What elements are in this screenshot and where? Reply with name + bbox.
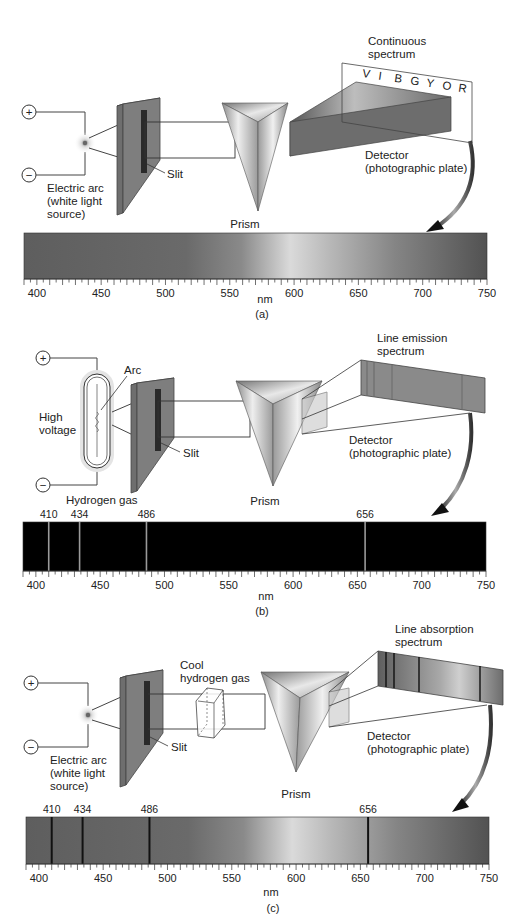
- detector-plate-emission: [361, 360, 485, 413]
- tick-label: 550: [223, 872, 241, 884]
- spectrum-title: Line absorption: [395, 623, 474, 635]
- prism-label: Prism: [230, 218, 259, 230]
- prism-label: Prism: [281, 788, 310, 800]
- spectrum-bar-continuous: 400450500550600650700750: [24, 233, 496, 299]
- spectrum-title-line2: spectrum: [377, 345, 424, 357]
- spectrum-bar-absorption: 410434486656400450500550600650700750: [26, 803, 498, 884]
- curved-arrow-icon: [440, 413, 471, 510]
- slit-label: Slit: [167, 168, 184, 180]
- spectral-line-label: 486: [138, 508, 156, 520]
- spectral-line-label: 486: [141, 803, 159, 815]
- spectroscopy-diagram: + − Slit Electric arc (white light sourc…: [0, 0, 519, 920]
- tick-label: 550: [220, 579, 238, 591]
- spectrum-band: [24, 233, 487, 279]
- tick-label: 500: [158, 872, 176, 884]
- plus-symbol: +: [40, 352, 47, 364]
- spectrum-letter: O: [442, 79, 453, 92]
- spectrum-title: Line emission: [377, 332, 447, 344]
- negative-terminal-icon: −: [24, 740, 38, 754]
- positive-terminal-icon: +: [22, 105, 36, 119]
- spectral-line-label: 656: [359, 803, 377, 815]
- tick-label: 500: [156, 287, 174, 299]
- panel-caption: (c): [267, 902, 280, 914]
- spectrum-letter: B: [394, 72, 404, 85]
- spectrum-band: [26, 817, 489, 864]
- source-label-line2: (white light: [47, 195, 103, 207]
- tick-label: 600: [287, 872, 305, 884]
- spectral-line-label: 434: [74, 803, 92, 815]
- spectrum-letter: G: [410, 74, 421, 87]
- spectrum-title: Continuous: [368, 35, 426, 47]
- prism-label: Prism: [250, 495, 279, 507]
- spectrum-letter: R: [458, 81, 468, 94]
- axis-unit-label: nm: [257, 293, 272, 305]
- plus-symbol: +: [28, 677, 35, 689]
- spectral-line-label: 656: [356, 508, 374, 520]
- slit-plate: [117, 98, 160, 215]
- negative-terminal-icon: −: [36, 478, 50, 492]
- detector-label: Detector: [365, 149, 409, 161]
- panel-caption: (a): [255, 308, 268, 320]
- minus-symbol: −: [40, 479, 47, 491]
- tick-label: 450: [92, 287, 110, 299]
- spectrum-letter: I: [378, 69, 383, 81]
- tick-label: 700: [413, 579, 431, 591]
- detector-plate-absorption: [378, 651, 503, 705]
- tick-label: 400: [28, 287, 46, 299]
- slit: [144, 681, 150, 745]
- detector-label: Detector: [349, 434, 393, 446]
- spectral-line-label: 410: [43, 803, 61, 815]
- tick-label: 650: [351, 872, 369, 884]
- gas-label: Hydrogen gas: [66, 494, 138, 506]
- spectrum-letter: Y: [426, 77, 436, 90]
- gas-cell: [196, 688, 225, 738]
- hydrogen-discharge-tube: [80, 370, 114, 472]
- source-label-line3: source): [47, 208, 86, 220]
- tick-label: 600: [284, 579, 302, 591]
- tick-label: 750: [478, 287, 496, 299]
- source-label: Electric arc: [47, 182, 104, 194]
- axis-unit-label: nm: [258, 590, 273, 602]
- slit-label: Slit: [183, 447, 200, 459]
- detector-label-line2: (photographic plate): [365, 162, 467, 174]
- voltage-label: High: [39, 411, 63, 423]
- arc-label: Arc: [124, 364, 142, 376]
- electric-arc-icon: [74, 132, 96, 154]
- source-label-line3: source): [50, 780, 89, 792]
- spectrum-title-line2: spectrum: [368, 48, 415, 60]
- prism: [222, 103, 288, 211]
- dispersed-beam: [290, 82, 451, 156]
- slit: [141, 110, 147, 173]
- tick-label: 400: [27, 579, 45, 591]
- plus-symbol: +: [26, 106, 33, 118]
- minus-symbol: −: [28, 741, 35, 753]
- panel-caption: (b): [255, 605, 268, 617]
- curved-arrow-icon: [435, 141, 473, 228]
- spectrum-bar-emission: 410434486656400450500550600650700750: [23, 508, 495, 591]
- tick-label: 450: [91, 579, 109, 591]
- detector-label-line2: (photographic plate): [349, 447, 451, 459]
- spectral-line-label: 434: [71, 508, 89, 520]
- tick-label: 600: [285, 287, 303, 299]
- negative-terminal-icon: −: [22, 168, 36, 182]
- positive-terminal-icon: +: [24, 676, 38, 690]
- minus-symbol: −: [26, 169, 33, 181]
- panel-b: + − Arc High voltage Slit Hydrogen: [23, 332, 495, 617]
- voltage-label-line2: voltage: [39, 424, 76, 436]
- detector-label-line2: (photographic plate): [367, 743, 469, 755]
- tick-label: 650: [349, 287, 367, 299]
- slit-label: Slit: [171, 741, 188, 753]
- panel-c: + − Slit Electric arc (white light sourc…: [24, 623, 503, 914]
- tick-label: 700: [416, 872, 434, 884]
- tick-label: 500: [155, 579, 173, 591]
- tick-label: 750: [477, 579, 495, 591]
- axis-unit-label: nm: [263, 886, 278, 898]
- spectrum-band: [23, 522, 486, 571]
- tick-label: 750: [480, 872, 498, 884]
- tick-label: 400: [30, 872, 48, 884]
- detector-label: Detector: [367, 730, 411, 742]
- gas-label-line2: hydrogen gas: [180, 672, 250, 684]
- gas-label: Cool: [180, 659, 204, 671]
- spectrum-title-line2: spectrum: [395, 636, 442, 648]
- tick-label: 650: [348, 579, 366, 591]
